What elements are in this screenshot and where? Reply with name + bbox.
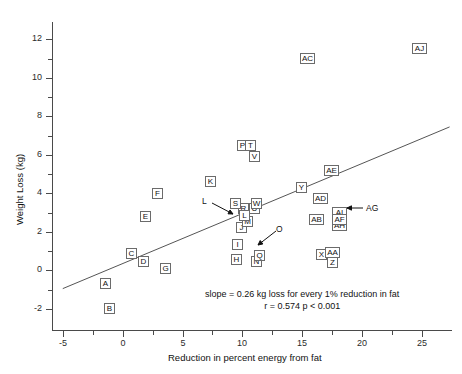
x-axis-tick-major xyxy=(302,331,303,337)
x-axis-tick-label-4: 15 xyxy=(287,339,317,348)
x-axis-tick-minor xyxy=(392,331,393,335)
x-axis-tick-major xyxy=(123,331,124,337)
data-point-T: T xyxy=(245,140,256,151)
y-axis-tick-minor xyxy=(48,97,52,98)
data-point-L: L xyxy=(239,210,250,221)
x-axis-tick-major xyxy=(362,331,363,337)
y-axis-tick-major xyxy=(46,309,52,310)
data-point-F: F xyxy=(152,188,163,199)
y-axis-tick-major xyxy=(46,155,52,156)
x-axis-tick-major xyxy=(183,331,184,337)
x-axis-tick-label-1: 0 xyxy=(108,339,138,348)
data-point-AE: AE xyxy=(324,165,339,176)
data-point-AA: AA xyxy=(325,247,340,258)
y-axis-tick-major xyxy=(46,116,52,117)
y-axis-line xyxy=(52,22,53,330)
y-axis-tick-minor xyxy=(48,251,52,252)
y-axis-tick-minor xyxy=(48,136,52,137)
y-axis-tick-minor xyxy=(48,213,52,214)
x-axis-tick-major xyxy=(422,331,423,337)
plot-vector-overlay xyxy=(0,0,462,374)
x-axis-tick-minor xyxy=(153,331,154,335)
data-point-B: B xyxy=(104,303,115,314)
y-axis-tick-minor xyxy=(48,59,52,60)
x-axis-tick-major xyxy=(63,331,64,337)
y-axis-tick-label-3: 4 xyxy=(18,188,42,197)
data-point-AC: AC xyxy=(300,53,315,64)
data-point-G: G xyxy=(160,263,171,274)
y-axis-tick-label-4: 6 xyxy=(18,150,42,159)
data-point-C: C xyxy=(126,248,137,259)
data-point-AF: AF xyxy=(332,214,347,225)
data-point-Z: Z xyxy=(327,257,338,268)
callout-label-O: O xyxy=(276,224,283,234)
data-point-K: K xyxy=(205,176,216,187)
data-point-H: H xyxy=(231,254,242,265)
annotation-slope-text: slope = 0.26 kg loss for every 1% reduct… xyxy=(205,288,399,300)
data-point-E: E xyxy=(140,211,151,222)
x-axis-tick-minor xyxy=(93,331,94,335)
y-axis-tick-label-0: -2 xyxy=(18,304,42,313)
data-point-A: A xyxy=(100,278,111,289)
y-axis-tick-label-7: 12 xyxy=(18,34,42,43)
data-point-AD: AD xyxy=(313,193,328,204)
y-axis-tick-major xyxy=(46,270,52,271)
y-axis-tick-label-1: 0 xyxy=(18,265,42,274)
y-axis-tick-major xyxy=(46,39,52,40)
data-point-Q: Q xyxy=(254,250,265,261)
y-axis-tick-label-5: 8 xyxy=(18,111,42,120)
regression-annotation: slope = 0.26 kg loss for every 1% reduct… xyxy=(205,288,399,312)
x-axis-tick-label-6: 25 xyxy=(407,339,437,348)
x-axis-tick-minor xyxy=(332,331,333,335)
y-axis-tick-major xyxy=(46,193,52,194)
data-point-S: S xyxy=(230,198,241,209)
data-point-W: W xyxy=(251,198,262,209)
y-axis-tick-major xyxy=(46,78,52,79)
x-axis-tick-label-5: 20 xyxy=(347,339,377,348)
data-point-V: V xyxy=(249,151,260,162)
x-axis-tick-minor xyxy=(212,331,213,335)
y-axis-tick-major xyxy=(46,232,52,233)
y-axis-tick-label-2: 2 xyxy=(18,227,42,236)
scatter-plot-figure: Weight Loss (kg) Reduction in percent en… xyxy=(0,0,462,374)
x-axis-tick-label-0: -5 xyxy=(48,339,78,348)
x-axis-tick-label-3: 10 xyxy=(227,339,257,348)
x-axis-tick-minor xyxy=(272,331,273,335)
data-point-AB: AB xyxy=(309,214,324,225)
data-point-Y: Y xyxy=(296,182,307,193)
callout-label-L: L xyxy=(202,196,207,206)
x-axis-title: Reduction in percent energy from fat xyxy=(168,352,322,363)
y-axis-tick-label-6: 10 xyxy=(18,73,42,82)
y-axis-tick-minor xyxy=(48,290,52,291)
annotation-stats-text: r = 0.574 p < 0.001 xyxy=(205,300,399,312)
callout-label-AG: AG xyxy=(366,203,378,213)
data-point-I: I xyxy=(232,239,243,250)
data-point-AJ: AJ xyxy=(412,43,427,54)
data-point-D: D xyxy=(138,256,149,267)
x-axis-tick-major xyxy=(242,331,243,337)
x-axis-tick-label-2: 5 xyxy=(168,339,198,348)
y-axis-tick-minor xyxy=(48,174,52,175)
